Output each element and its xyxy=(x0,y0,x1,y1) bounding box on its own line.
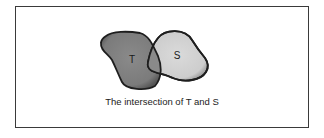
set-s-label: S xyxy=(174,50,181,61)
set-t-label: T xyxy=(129,54,135,65)
diagram-caption: The intersection of T and S xyxy=(0,96,324,107)
venn-diagram: T S xyxy=(0,0,324,138)
